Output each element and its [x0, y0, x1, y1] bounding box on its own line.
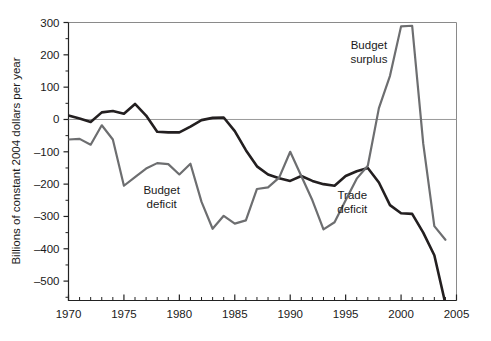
- y-tick-label: –400: [34, 243, 60, 255]
- y-tick-label: –200: [34, 178, 60, 190]
- annotation-line2: surplus: [350, 53, 387, 65]
- y-tick-label: 300: [40, 17, 59, 29]
- y-tick-label: 200: [40, 49, 59, 61]
- x-tick-label: 1995: [333, 308, 359, 320]
- x-tick-label: 1970: [56, 308, 82, 320]
- chart-figure: 3002001000–100–200–300–400–500 197019751…: [0, 0, 491, 341]
- y-axis-title: Billions of constant 2004 dollars per ye…: [10, 57, 22, 264]
- annotation-line1: Budget: [143, 184, 180, 196]
- x-tick-label: 2005: [444, 308, 470, 320]
- y-tick-label: –300: [34, 210, 60, 222]
- y-tick-label: –500: [34, 275, 60, 287]
- x-tick-label: 1980: [167, 308, 193, 320]
- chart-background: [0, 0, 491, 341]
- x-tick-label: 1975: [111, 308, 137, 320]
- x-tick-label: 2000: [388, 308, 414, 320]
- y-tick-label: 0: [53, 113, 59, 125]
- annotation-line2: deficit: [147, 198, 178, 210]
- annotation-line1: Budget: [351, 39, 388, 51]
- x-tick-label: 1990: [277, 308, 303, 320]
- chart-canvas: 3002001000–100–200–300–400–500 197019751…: [0, 0, 491, 341]
- x-tick-label: 1985: [222, 308, 248, 320]
- annotation-line2: deficit: [337, 203, 368, 215]
- y-tick-label: 100: [40, 81, 59, 93]
- annotation-line1: Trade: [337, 189, 367, 201]
- y-tick-label: –100: [34, 146, 60, 158]
